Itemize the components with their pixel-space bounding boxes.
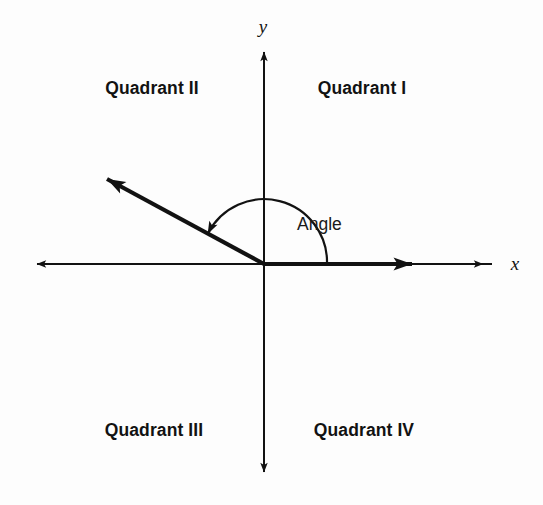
terminal-side-ray (107, 179, 264, 264)
x-axis-label-text: x (511, 253, 519, 274)
quadrant-3-text: Quadrant III (105, 420, 203, 440)
x-axis-label: x (511, 253, 519, 275)
quadrant-1-text: Quadrant I (318, 78, 407, 98)
quadrant-4-text: Quadrant IV (314, 420, 414, 440)
coordinate-plane (0, 0, 543, 505)
angle-label-text: Angle (297, 214, 342, 234)
quadrant-label-1: Quadrant I (318, 78, 407, 99)
y-axis-label-text: y (259, 16, 267, 37)
quadrant-label-3: Quadrant III (105, 420, 203, 441)
angle-label: Angle (297, 214, 342, 235)
diagram-canvas: Quadrant II Quadrant I Quadrant III Quad… (0, 0, 543, 505)
y-axis-label: y (259, 16, 267, 38)
quadrant-2-text: Quadrant II (105, 78, 198, 98)
quadrant-label-4: Quadrant IV (314, 420, 414, 441)
quadrant-label-2: Quadrant II (105, 78, 198, 99)
